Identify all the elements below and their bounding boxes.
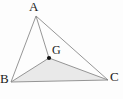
vertex-label-a: A: [29, 0, 38, 13]
vertex-label-g: G: [52, 44, 61, 57]
point-marker-g: [47, 56, 51, 60]
geometry-figure: A B C G: [0, 0, 123, 99]
geometry-canvas: [0, 0, 123, 99]
vertex-label-c: C: [110, 70, 119, 83]
vertex-label-b: B: [0, 72, 9, 85]
